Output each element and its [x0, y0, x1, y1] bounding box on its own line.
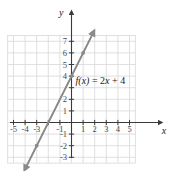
y-tick-label: -2 — [60, 141, 67, 151]
x-tick-label: 2 — [93, 124, 97, 134]
graph-figure: -5-4-3-112345765421-1-2-3 y x f(x) = 2x … — [0, 0, 174, 171]
y-axis-label: y — [58, 7, 64, 18]
equation-annotation: f(x) = 2x + 4 — [76, 75, 126, 87]
y-tick-label: 2 — [63, 94, 67, 104]
x-tick-label: -3 — [33, 124, 40, 134]
x-tick-label: -4 — [22, 124, 30, 134]
x-tick-label: 4 — [116, 124, 121, 134]
data-point — [70, 74, 74, 78]
x-tick-label: 1 — [81, 124, 85, 134]
y-tick-label: 5 — [63, 60, 67, 70]
data-point — [35, 144, 39, 148]
x-tick-label: 3 — [104, 124, 108, 134]
x-tick-label: -5 — [10, 124, 17, 134]
y-tick-label: 6 — [63, 48, 67, 58]
x-tick-label: 5 — [127, 124, 131, 134]
data-point — [81, 51, 85, 55]
y-tick-label: 1 — [63, 106, 67, 116]
y-tick-label: -3 — [60, 152, 67, 162]
coordinate-plane-svg: -5-4-3-112345765421-1-2-3 y x f(x) = 2x … — [0, 0, 174, 171]
y-tick-label: -1 — [60, 129, 67, 139]
x-axis-label: x — [161, 125, 167, 136]
y-tick-label: 7 — [63, 36, 67, 46]
